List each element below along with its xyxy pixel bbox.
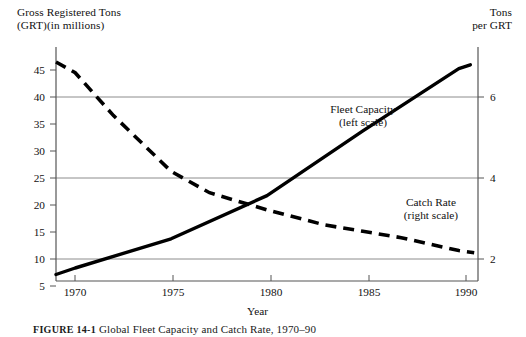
ytick-label-5: 5 — [15, 280, 45, 292]
xtick-label-1970: 1970 — [64, 286, 87, 298]
left-axis-ticks — [50, 70, 56, 286]
xtick-label-1985: 1985 — [358, 286, 381, 298]
ytick-label-40: 40 — [15, 91, 45, 103]
series-annotation-catch-rate: Catch Rate (right scale) — [383, 196, 479, 222]
xtick-label-1990: 1990 — [455, 286, 478, 298]
ytick-label-30: 30 — [15, 145, 45, 157]
series-line-catch-rate — [56, 62, 474, 253]
y2tick-label-4: 4 — [490, 172, 496, 184]
y2tick-label-2: 2 — [490, 253, 496, 265]
ytick-label-20: 20 — [15, 199, 45, 211]
ytick-label-10: 10 — [15, 253, 45, 265]
series-annotation-fleet-capacity: Fleet Capacity (left scale) — [311, 103, 415, 129]
xtick-label-1975: 1975 — [162, 286, 185, 298]
ytick-label-25: 25 — [15, 172, 45, 184]
x-axis-title: Year — [247, 305, 268, 318]
axis-spines — [56, 47, 478, 281]
ytick-label-35: 35 — [15, 118, 45, 130]
figure-number: FIGURE 14-1 — [33, 324, 96, 335]
figure-caption-text: Global Fleet Capacity and Catch Rate, 19… — [99, 323, 316, 335]
x-axis-ticks — [75, 275, 466, 281]
figure-caption: FIGURE 14-1 Global Fleet Capacity and Ca… — [33, 323, 316, 335]
right-axis-ticks — [478, 97, 484, 259]
figure-container: Gross Registered Tons (GRT)(in millions)… — [0, 0, 526, 337]
y2tick-label-6: 6 — [490, 91, 496, 103]
series-line-fleet-capacity — [56, 65, 470, 275]
ytick-label-45: 45 — [15, 64, 45, 76]
ytick-label-15: 15 — [15, 226, 45, 238]
xtick-label-1980: 1980 — [260, 286, 283, 298]
